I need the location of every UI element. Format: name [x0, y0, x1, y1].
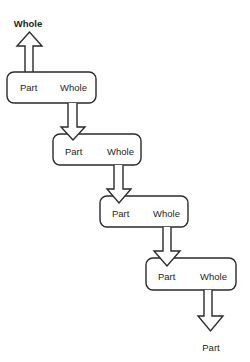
box-part-label: Part: [158, 271, 176, 282]
box-part-label: Part: [112, 208, 130, 219]
box-part-label: Part: [20, 82, 38, 93]
box-whole-label: Whole: [153, 208, 180, 219]
hierarchy-box-2: Part Whole: [53, 134, 141, 165]
box-whole-label: Whole: [200, 271, 227, 282]
up-arrow-icon: [17, 32, 42, 73]
hierarchy-box-4: Part Whole: [146, 258, 236, 290]
hierarchy-box-1: Part Whole: [7, 72, 96, 103]
box-whole-label: Whole: [107, 146, 134, 157]
bottom-part-label: Part: [202, 342, 220, 353]
down-arrow-icon: [198, 290, 223, 331]
top-whole-label: Whole: [14, 18, 43, 29]
box-part-label: Part: [65, 146, 83, 157]
hierarchy-box-3: Part Whole: [100, 196, 188, 227]
box-whole-label: Whole: [60, 82, 87, 93]
part-whole-hierarchy-diagram: Whole Part Whole Part Whole Part Whole P…: [0, 0, 250, 362]
